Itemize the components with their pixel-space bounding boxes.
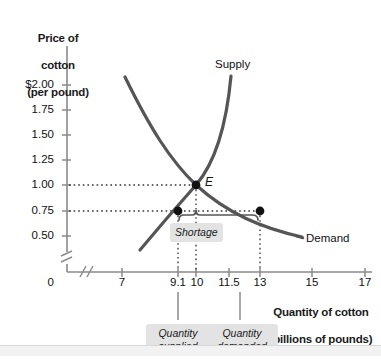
x-tick-label-17: 17 [351, 276, 379, 288]
quantity-supplied-line-1: Quantity [158, 327, 197, 339]
demand-curve-label: Demand [306, 232, 349, 244]
x-tick-label-11-5: 11.5 [213, 276, 245, 288]
y-tick-label-125: 1.25 [10, 153, 54, 165]
shortage-callout: Shortage [170, 223, 223, 242]
x-tick-label-7: 7 [108, 276, 136, 288]
y-tick-label-175: 1.75 [10, 103, 54, 115]
y-tick-label-150: 1.50 [10, 128, 54, 140]
origin-label: 0 [10, 276, 54, 288]
y-tick-label-200: $2.00 [10, 78, 54, 90]
y-axis-title: Price of cotton (per pound) [8, 18, 96, 113]
quantity-supplied-marker [174, 207, 183, 216]
x-tick-label-13: 13 [246, 276, 274, 288]
equilibrium-marker [192, 181, 201, 190]
quantity-demanded-marker [256, 207, 265, 216]
supply-curve-label: Supply [215, 58, 250, 70]
y-tick-label-050: 0.50 [10, 229, 54, 241]
equilibrium-label: E [205, 175, 213, 189]
y-tick-label-075: 0.75 [10, 204, 54, 216]
x-tick-label-15: 15 [298, 276, 326, 288]
bottom-border-strip [0, 345, 381, 356]
y-tick-label-100: 1.00 [10, 178, 54, 190]
x-tick-label-10: 10 [183, 276, 211, 288]
quantity-demanded-line-1: Quantity [222, 327, 261, 339]
y-axis-break-icon [61, 251, 72, 262]
